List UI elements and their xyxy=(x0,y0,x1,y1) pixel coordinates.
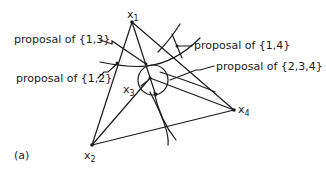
intersection-dot xyxy=(155,93,158,96)
intersection-dot xyxy=(145,63,148,66)
annotation-proposal-1-2: proposal of {1,2} xyxy=(16,73,112,84)
point-x3 xyxy=(149,77,152,80)
label-x4: x4 xyxy=(238,104,250,118)
curve-234b xyxy=(154,92,176,140)
curve-234 xyxy=(150,92,168,145)
annotation-proposal-2-3-4: proposal of {2,3,4} xyxy=(216,61,323,72)
proposal-diagram xyxy=(0,0,326,172)
label-x1: x1 xyxy=(127,9,139,23)
edge-x2-x3 xyxy=(92,78,150,145)
point-x4 xyxy=(232,108,236,112)
annotation-proposal-1-3: proposal of {1,3} xyxy=(14,34,110,45)
intersection-dot xyxy=(116,62,119,65)
edge-x2-x4 xyxy=(92,110,234,145)
label-x3: x3 xyxy=(123,84,135,98)
intersection-dot xyxy=(176,45,179,48)
curve-14b xyxy=(158,24,180,52)
label-x2: x2 xyxy=(84,150,96,164)
panel-label: (a) xyxy=(14,150,29,161)
curve-13-12 xyxy=(100,38,200,67)
circle-x3 xyxy=(138,65,168,95)
point-x2 xyxy=(90,143,94,147)
annotation-proposal-1-4: proposal of {1,4} xyxy=(194,40,290,51)
